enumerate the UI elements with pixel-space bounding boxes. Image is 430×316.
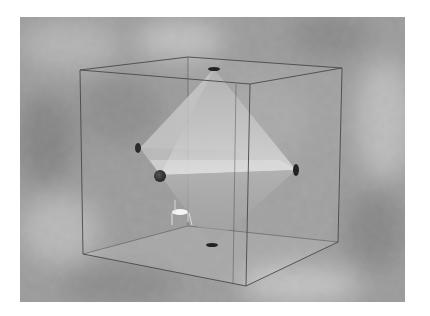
scene-frame <box>20 17 405 302</box>
top-marker <box>208 67 220 71</box>
left-front-marker <box>154 170 166 182</box>
bottom-marker <box>206 243 218 247</box>
left-back-marker <box>135 143 141 153</box>
right-marker <box>293 164 299 176</box>
rendered-3d-scene <box>20 17 405 302</box>
